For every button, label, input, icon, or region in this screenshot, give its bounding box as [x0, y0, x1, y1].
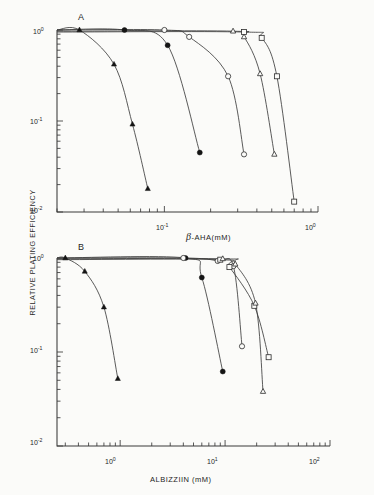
data-point-open-circle — [162, 27, 167, 32]
data-point-filled-circle — [165, 43, 170, 48]
curve-open-square — [57, 259, 269, 357]
curve-open-square — [57, 32, 294, 202]
panel-a-axes — [57, 30, 318, 212]
data-point-filled-triangle — [101, 304, 106, 309]
data-point-open-triangle — [257, 71, 262, 76]
data-point-open-circle — [241, 152, 246, 157]
data-point-filled-triangle — [145, 186, 150, 191]
curve-filled-triangle — [57, 257, 118, 379]
data-point-open-circle — [239, 344, 244, 349]
data-point-open-triangle — [272, 151, 277, 156]
data-point-open-square — [227, 265, 232, 270]
figure-container: RELATIVE PLATING EFFICIENCY A B β-AHA(mM… — [0, 0, 374, 495]
panel-a-markers — [77, 27, 297, 204]
panel-b-curves — [57, 257, 269, 392]
data-point-filled-triangle — [115, 376, 120, 381]
data-point-open-circle — [187, 34, 192, 39]
data-point-open-triangle — [253, 300, 258, 305]
data-point-open-square — [274, 74, 279, 79]
data-point-open-triangle — [260, 389, 265, 394]
data-point-open-triangle — [230, 28, 235, 33]
data-point-open-square — [266, 355, 271, 360]
data-point-filled-circle — [197, 150, 202, 155]
plot-canvas — [0, 0, 374, 495]
curve-open-triangle — [57, 258, 263, 391]
data-point-filled-circle — [122, 28, 127, 33]
data-point-filled-triangle — [130, 121, 135, 126]
curve-filled-circle — [57, 257, 223, 372]
data-point-open-square — [242, 30, 247, 35]
curve-open-triangle — [57, 31, 274, 155]
panel-b-axes — [57, 258, 330, 446]
data-point-open-circle — [226, 74, 231, 79]
panel-a-curves — [57, 27, 294, 201]
data-point-open-square — [259, 35, 264, 40]
curve-filled-triangle — [57, 27, 148, 188]
data-point-filled-circle — [199, 275, 204, 280]
data-point-open-circle — [181, 255, 186, 260]
data-point-filled-circle — [220, 369, 225, 374]
data-point-open-square — [292, 199, 297, 204]
curve-filled-circle — [57, 29, 200, 153]
curve-open-circle — [57, 29, 244, 154]
